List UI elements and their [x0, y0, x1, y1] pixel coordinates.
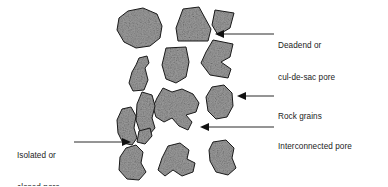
grain-mid-left-small	[129, 56, 149, 91]
grain-right-oval	[206, 85, 233, 119]
grain-bottom-center	[158, 143, 195, 176]
label-interconnected-pore: Interconnected pore	[278, 121, 352, 174]
grain-left-blob	[117, 107, 137, 145]
grain-center-lobed	[153, 88, 199, 130]
grain-top-left-rounded	[117, 8, 162, 48]
label-isolated-closed-pore: Isolated or closed pore	[17, 130, 60, 186]
arrow-head-interconnected	[200, 123, 209, 131]
grain-bottom-left	[119, 145, 146, 180]
label-deadend-line1: Deadend or	[278, 41, 335, 52]
pore-types-diagram: Deadend or cul-de-sac pore Rock grains I…	[0, 0, 388, 186]
label-isolated-line1: Isolated or	[17, 151, 60, 162]
label-isolated-line2: closed pore	[17, 183, 60, 187]
label-deadend-line2: cul-de-sac pore	[278, 73, 335, 84]
grain-top-wedge	[176, 7, 211, 41]
grain-top-right-zigzag	[201, 40, 233, 78]
arrow-head-rock-grains	[237, 92, 246, 100]
grain-mid-center-oval	[162, 47, 189, 83]
label-interconnected-line1: Interconnected pore	[278, 142, 352, 153]
grain-bottom-right	[209, 140, 236, 175]
grain-left-tall	[136, 92, 155, 135]
